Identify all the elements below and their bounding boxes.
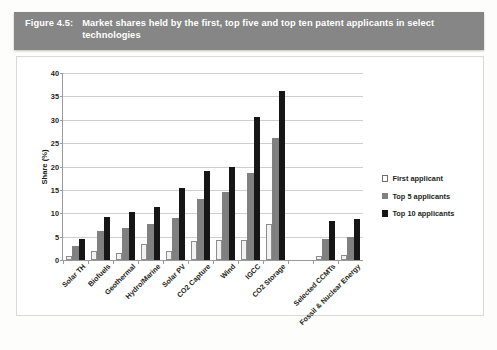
y-axis-tick-label: 5 (55, 232, 59, 241)
legend-label: First applicant (392, 174, 443, 183)
legend-swatch-icon (382, 175, 388, 181)
x-axis-tick-mark (188, 260, 189, 264)
bar-group (188, 73, 213, 260)
bar (222, 192, 228, 260)
x-axis-tick-mark (313, 260, 314, 264)
plot-area: Share (%) 0510152025303540 (62, 73, 363, 261)
bar (229, 167, 235, 261)
bar-group (138, 73, 163, 260)
chart-figure: Share (%) 0510152025303540 Solar THBiofu… (16, 56, 484, 316)
bar (154, 207, 160, 260)
y-axis-tick-label: 30 (51, 115, 59, 124)
y-axis-title: Share (%) (40, 149, 49, 184)
bar (166, 251, 172, 260)
legend-swatch-icon (382, 210, 388, 216)
bar (354, 219, 360, 260)
figure-caption: Figure 4.5: Market shares held by the fi… (14, 12, 484, 42)
bar (347, 237, 353, 260)
x-axis-label: Selected CCMTs (291, 262, 337, 308)
chart-legend: First applicantTop 5 applicantsTop 10 ap… (382, 174, 454, 218)
x-axis-tick-mark (163, 260, 164, 264)
y-axis-tick-label: 40 (51, 69, 59, 78)
bar (322, 239, 328, 261)
bar (72, 246, 78, 260)
x-axis-tick-mark (113, 260, 114, 264)
x-axis-tick-mark (238, 260, 239, 264)
bar (197, 199, 203, 260)
bar-group (163, 73, 188, 260)
bar-group (113, 73, 138, 260)
bar (191, 241, 197, 260)
bar (216, 240, 222, 260)
bar (266, 224, 272, 260)
bar (116, 253, 122, 260)
bar-group (313, 73, 338, 260)
bar (272, 138, 278, 260)
figure-caption-text: Market shares held by the first, top fiv… (82, 17, 474, 42)
bar (66, 256, 72, 260)
y-axis-tick-label: 35 (51, 92, 59, 101)
y-axis-tick-label: 25 (51, 139, 59, 148)
x-axis-label: Solar TH (60, 262, 87, 289)
bar-group (213, 73, 238, 260)
bar (172, 218, 178, 260)
legend-item[interactable]: First applicant (382, 174, 454, 183)
x-axis-tick-mark (338, 260, 339, 264)
bar (129, 212, 135, 260)
bar (141, 244, 147, 260)
bar (179, 188, 185, 260)
bar (341, 255, 347, 260)
x-axis-tick-mark (138, 260, 139, 264)
bar (241, 240, 247, 260)
bar-groups (63, 73, 363, 260)
x-axis-label: Wind (218, 262, 237, 281)
bar (254, 117, 260, 260)
bar (122, 228, 128, 260)
bar (247, 173, 253, 260)
bar (91, 251, 97, 260)
bar (147, 224, 153, 260)
y-axis-tick-label: 10 (51, 209, 59, 218)
x-axis-tick-mark (263, 260, 264, 264)
x-axis-tick-mark (63, 260, 64, 264)
bar (97, 231, 103, 260)
y-axis-tick-label: 0 (55, 256, 59, 265)
y-axis-tick-label: 20 (51, 162, 59, 171)
x-axis-tick-mark (88, 260, 89, 264)
x-axis-label: IGCC (243, 262, 262, 281)
x-axis-tick-mark (213, 260, 214, 264)
y-axis-tick-label: 15 (51, 185, 59, 194)
bar (204, 171, 210, 260)
bar (316, 256, 322, 260)
bar-group (338, 73, 363, 260)
figure-caption-label: Figure 4.5: (25, 17, 73, 42)
bar-group (238, 73, 263, 260)
bar-group (263, 73, 288, 260)
bar (104, 217, 110, 260)
figure-caption-bar: Figure 4.5: Market shares held by the fi… (14, 12, 484, 50)
bar-group (88, 73, 113, 260)
bar-group (63, 73, 88, 260)
legend-label: Top 5 applicants (392, 192, 450, 201)
legend-label: Top 10 applicants (392, 209, 454, 218)
x-axis-tick-mark (288, 260, 289, 264)
bar (279, 91, 285, 260)
legend-item[interactable]: Top 5 applicants (382, 192, 454, 201)
bar-group (288, 73, 313, 260)
bar (79, 239, 85, 261)
bar (329, 221, 335, 260)
legend-swatch-icon (382, 193, 388, 199)
legend-item[interactable]: Top 10 applicants (382, 209, 454, 218)
